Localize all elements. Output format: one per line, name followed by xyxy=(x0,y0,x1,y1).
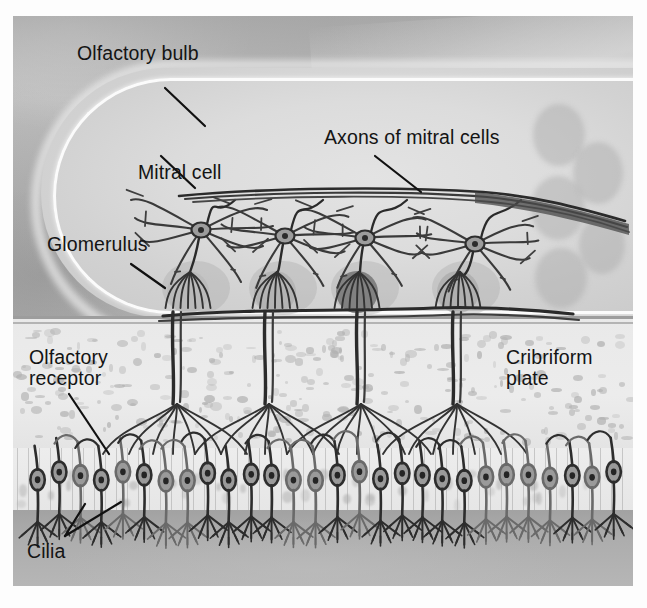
receptor-cilium xyxy=(546,435,569,444)
olfactory-receptor-nucleus xyxy=(269,472,275,479)
cilia-branchlet xyxy=(455,537,459,546)
mitral-dendrite-branch xyxy=(337,206,353,211)
olfactory-nerve-trunk-2 xyxy=(272,312,273,402)
receptor-dendrite xyxy=(483,443,486,467)
olfactory-receptor-nucleus xyxy=(547,475,553,482)
olfactory-receptor-nucleus xyxy=(611,468,617,475)
olfactory-receptor-nucleus xyxy=(98,477,104,484)
olfactory-system-figure: Olfactory bulb Mitral cell Glomerulus Ax… xyxy=(0,0,647,608)
mitral-cell-nucleus xyxy=(472,241,478,247)
olfactory-nerve-trunk xyxy=(452,312,453,404)
olfactory-receptor-nucleus xyxy=(226,477,232,484)
label-glomerulus: Glomerulus xyxy=(47,234,148,255)
cilia-branchlet xyxy=(172,536,176,545)
mitral-dendrite-branch xyxy=(521,251,535,264)
label-olfactory-receptor: Olfactory receptor xyxy=(29,347,108,389)
receptor-axon xyxy=(287,404,361,454)
label-mitral-cell: Mitral cell xyxy=(138,162,221,183)
mitral-dendrite-branch xyxy=(501,278,505,280)
olfactory-receptor-nucleus xyxy=(462,477,468,484)
mitral-dendrite-branch xyxy=(392,274,396,275)
receptor-cilium xyxy=(267,440,290,449)
cilia-branchlet xyxy=(135,531,139,540)
olfactory-receptor-nucleus xyxy=(335,472,341,479)
cilia-branchlet xyxy=(371,535,375,544)
leader-axons-of-mitral-cells xyxy=(375,156,421,192)
receptor-dendrite xyxy=(399,439,402,463)
label-axons-of-mitral-cells: Axons of mitral cells xyxy=(324,127,500,148)
mitral-dendrite-branch xyxy=(255,199,271,204)
mitral-dendrite-branch xyxy=(175,271,180,272)
cilia-branchlet xyxy=(235,535,239,544)
cilia-branchlet xyxy=(556,534,560,543)
label-olfactory-bulb: Olfactory bulb xyxy=(77,43,199,64)
mitral-dendrite-branch xyxy=(231,269,235,270)
mitral-dendrite-branch xyxy=(231,218,232,232)
diagram-plate: Olfactory bulb Mitral cell Glomerulus Ax… xyxy=(13,16,633,586)
cilia-branchlet xyxy=(513,530,517,539)
cilia-branchlet xyxy=(219,536,223,545)
receptor-dendrite xyxy=(377,445,380,469)
cilia-branchlet xyxy=(497,531,501,540)
receptor-dendrite xyxy=(163,447,166,471)
cilia-branchlet xyxy=(579,531,583,540)
mitral-cell-nucleus xyxy=(362,235,368,241)
cilia-branchlet xyxy=(306,536,310,545)
olfactory-receptor-nucleus xyxy=(439,475,445,482)
cilia-branchlet xyxy=(258,530,262,539)
olfactory-receptor-nucleus xyxy=(120,468,126,475)
leader-olfactory-bulb xyxy=(165,88,205,126)
receptor-dendrite xyxy=(248,440,251,464)
cilia-branchlet xyxy=(626,523,633,529)
olfactory-receptor-nucleus xyxy=(570,472,576,479)
cilia-branchlet xyxy=(344,530,348,539)
olfactory-nerve-layer-2 xyxy=(159,314,579,321)
receptor-dendrite xyxy=(589,443,592,467)
receptor-dendrite xyxy=(461,447,464,471)
olfactory-receptor-nucleus xyxy=(399,470,405,477)
receptor-dendrite xyxy=(290,446,293,470)
receptor-cilium xyxy=(182,433,205,442)
receptor-dendrite xyxy=(184,446,187,470)
olfactory-nerve-trunk xyxy=(356,312,357,404)
receptor-dendrite xyxy=(334,441,337,465)
receptor-axon xyxy=(103,404,177,454)
cilia-branchlet xyxy=(92,536,96,545)
mitral-cell-nucleus xyxy=(198,227,204,233)
receptor-cilium xyxy=(438,440,461,449)
cilia-branchlet xyxy=(387,534,391,543)
mitral-dendrite-branch xyxy=(523,216,538,221)
mitral-cell-nucleus xyxy=(282,233,288,239)
cilia-branchlet xyxy=(598,533,602,542)
receptor-dendrite xyxy=(419,441,422,465)
receptor-cilium xyxy=(588,431,611,440)
cilia-branchlet xyxy=(19,532,26,538)
olfactory-nerve-trunk-2 xyxy=(364,312,365,402)
olfactory-receptor-nucleus xyxy=(526,471,532,478)
olfactory-receptor-nucleus xyxy=(357,468,363,475)
leader-glomerulus xyxy=(131,264,165,288)
cilia-branchlet xyxy=(413,531,417,540)
olfactory-receptor-nucleus xyxy=(35,476,41,483)
mitral-dendrite-branch xyxy=(260,275,265,276)
cilia-branchlet xyxy=(620,527,624,536)
mitral-dendrite-branch xyxy=(314,273,318,274)
olfactory-receptor-nucleus xyxy=(163,478,169,485)
olfactory-receptor-nucleus xyxy=(56,469,62,476)
receptor-dendrite xyxy=(98,446,101,470)
receptor-dendrite xyxy=(504,441,507,465)
mitral-dendrite-branch xyxy=(127,190,143,196)
olfactory-receptor-nucleus xyxy=(248,471,254,478)
olfactory-receptor-nucleus xyxy=(378,475,384,482)
neuron-drawing xyxy=(13,16,633,586)
cilia-branchlet xyxy=(194,536,198,545)
cilia-branchlet xyxy=(471,536,475,545)
cilia-branchlet xyxy=(284,536,288,545)
olfactory-receptor-nucleus xyxy=(291,477,297,484)
olfactory-receptor-nucleus xyxy=(589,474,595,481)
cilia-branchlet xyxy=(541,534,545,543)
receptor-dendrite xyxy=(226,446,229,470)
olfactory-receptor-nucleus xyxy=(420,472,426,479)
receptor-axon xyxy=(313,404,361,454)
receptor-dendrite xyxy=(205,439,208,463)
